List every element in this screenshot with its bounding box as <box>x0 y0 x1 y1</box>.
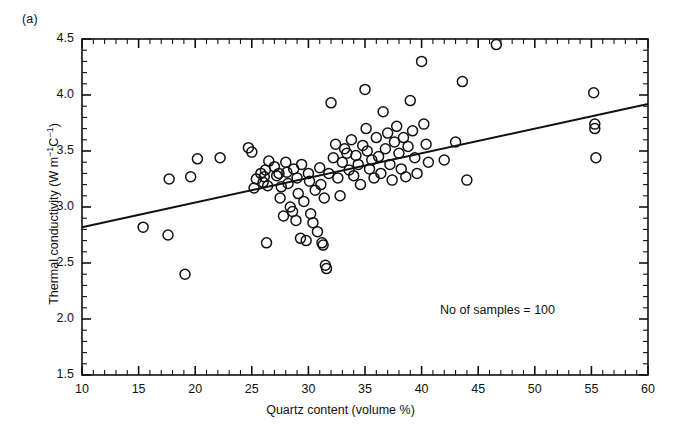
data-point <box>186 172 196 182</box>
y-axis-title: Thermal conductivity (W m−1C−1) <box>47 64 61 364</box>
x-axis-title: Quartz content (volume %) <box>0 403 681 417</box>
data-point <box>163 230 173 240</box>
data-point <box>403 142 413 152</box>
data-point <box>275 193 285 203</box>
sample-count-annotation: No of samples = 100 <box>440 303 555 317</box>
data-point <box>312 227 322 237</box>
panel-label: (a) <box>22 12 38 26</box>
data-point <box>326 98 336 108</box>
x-tick-label: 25 <box>232 382 272 396</box>
data-point <box>192 154 202 164</box>
data-point <box>315 163 325 173</box>
x-tick-label: 10 <box>62 382 102 396</box>
data-points <box>138 40 601 280</box>
data-point <box>264 156 274 166</box>
y-tick-label: 1.5 <box>34 367 74 381</box>
data-point <box>319 193 329 203</box>
data-point <box>295 233 305 243</box>
y-axis-title-text: Thermal conductivity (W m−1C−1) <box>47 123 61 305</box>
data-point <box>412 168 422 178</box>
data-point <box>371 133 381 143</box>
data-point <box>138 222 148 232</box>
data-point <box>462 175 472 185</box>
data-point <box>401 172 411 182</box>
data-point <box>310 185 320 195</box>
x-axis-ticks <box>82 39 648 375</box>
data-point <box>333 173 343 183</box>
data-point <box>423 157 433 167</box>
y-axis-ticks <box>82 39 648 375</box>
data-point <box>439 155 449 165</box>
data-point <box>457 77 467 87</box>
axis-frame <box>82 39 648 375</box>
data-point <box>417 56 427 66</box>
data-point <box>164 174 174 184</box>
x-tick-label: 20 <box>175 382 215 396</box>
data-point <box>378 107 388 117</box>
data-point <box>301 236 311 246</box>
data-point <box>392 121 402 131</box>
x-tick-label: 15 <box>119 382 159 396</box>
data-point <box>292 173 302 183</box>
data-point <box>405 96 415 106</box>
x-tick-label: 55 <box>571 382 611 396</box>
data-point <box>299 196 309 206</box>
data-point <box>360 84 370 94</box>
data-point <box>316 180 326 190</box>
data-point <box>591 153 601 163</box>
data-point <box>215 153 225 163</box>
y-tick-label: 4.5 <box>34 31 74 45</box>
data-point <box>272 171 282 181</box>
data-point <box>394 148 404 158</box>
scatter-plot-canvas <box>0 0 681 448</box>
data-point <box>380 144 390 154</box>
data-point <box>408 126 418 136</box>
data-point <box>355 180 365 190</box>
data-point <box>421 139 431 149</box>
data-point <box>297 159 307 169</box>
x-tick-label: 30 <box>288 382 328 396</box>
data-point <box>180 269 190 279</box>
figure-container: (a) 1015202530354045505560 1.52.02.53.03… <box>0 0 681 448</box>
x-tick-label: 35 <box>345 382 385 396</box>
data-point <box>262 238 272 248</box>
data-point <box>419 119 429 129</box>
data-point <box>589 88 599 98</box>
x-tick-label: 50 <box>515 382 555 396</box>
x-tick-label: 40 <box>402 382 442 396</box>
data-point <box>361 124 371 134</box>
x-tick-label: 60 <box>628 382 668 396</box>
data-point <box>383 128 393 138</box>
x-tick-label: 45 <box>458 382 498 396</box>
data-point <box>335 191 345 201</box>
data-point <box>491 40 501 50</box>
data-point <box>387 175 397 185</box>
data-point <box>346 135 356 145</box>
data-point <box>291 215 301 225</box>
